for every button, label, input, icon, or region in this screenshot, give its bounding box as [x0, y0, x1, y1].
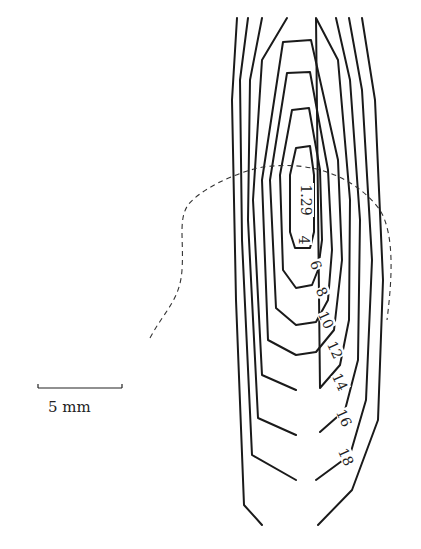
contour-diagram: 1.294681012141618	[0, 0, 421, 549]
contour-label: 1.29	[298, 184, 314, 215]
scale-bar-label: 5 mm	[48, 398, 91, 416]
contour-lines	[232, 18, 383, 525]
contour-label: 18	[335, 446, 357, 469]
contour-label: 12	[324, 339, 346, 362]
contour-line	[232, 18, 383, 525]
contour-label: 16	[333, 407, 355, 430]
contour-label: 4	[296, 236, 312, 245]
